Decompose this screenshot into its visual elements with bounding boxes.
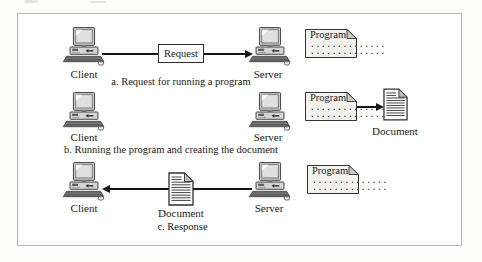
request-label-box: Request: [158, 44, 204, 63]
print-artifact: [90, 1, 106, 3]
request-label: Request: [164, 48, 198, 59]
figure-canvas: Request Client Server Program ..........…: [0, 0, 482, 262]
server-label: Server: [239, 202, 299, 214]
caption-a: a. Request for running a program: [96, 76, 266, 87]
document-icon: [383, 88, 408, 121]
caption-c: c. Response: [140, 221, 225, 232]
document-label: Document: [151, 207, 211, 219]
program-card-dots: ..............: [310, 112, 386, 118]
client-computer-icon: [62, 27, 106, 66]
server-label: Server: [238, 131, 298, 143]
program-note-card: Program .............. ..............: [305, 92, 357, 121]
response-arrowhead-icon: [102, 185, 110, 193]
program-card-title: Program: [310, 29, 346, 40]
client-computer-icon: [62, 162, 106, 201]
caption-b: b. Running the program and creating the …: [64, 144, 278, 155]
program-note-card: Program .............. ..............: [305, 29, 357, 58]
server-computer-icon: [248, 92, 292, 131]
client-label: Client: [54, 131, 114, 143]
program-card-dots: ..............: [310, 49, 386, 55]
create-document-arrow-line: [357, 106, 377, 108]
server-computer-icon: [248, 27, 292, 66]
server-computer-icon: [248, 162, 292, 201]
client-computer-icon: [62, 92, 106, 131]
client-label: Client: [54, 202, 114, 214]
document-icon: [168, 172, 193, 205]
program-card-dots: ..............: [312, 185, 388, 191]
document-label: Document: [365, 125, 425, 137]
program-card-title: Program: [312, 165, 348, 176]
print-artifact: [24, 0, 38, 3]
program-card-title: Program: [310, 92, 346, 103]
program-note-card: Program .............. ..............: [307, 165, 359, 194]
